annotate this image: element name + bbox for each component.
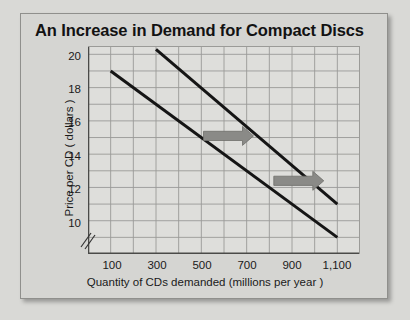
demand-chart-svg [88,46,360,254]
figure-panel-inner: An Increase in Demand for Compact Discs … [21,14,387,298]
shift-arrows [204,126,324,190]
y-axis-title-wrap: Price per CD ( dollars ) [43,74,73,224]
x-tick-label-500: 500 [182,259,222,271]
x-tick-label-900: 900 [272,259,312,271]
screenshot-root: An Increase in Demand for Compact Discs … [0,0,410,320]
x-tick-label-100: 100 [92,259,132,271]
figure-title: An Increase in Demand for Compact Discs [35,21,364,40]
y-tick-label-16: 16 [55,116,81,128]
y-tick-label-12: 12 [55,183,81,195]
y-tick-label-10: 10 [55,217,81,229]
x-tick-label-700: 700 [227,259,267,271]
figure-panel: An Increase in Demand for Compact Discs … [20,13,388,299]
x-axis-title: Quantity of CDs demanded (millions per y… [21,276,389,288]
axis-break-marks [78,230,100,256]
shift-arrow-0 [204,126,254,145]
plot-area [88,46,360,254]
y-tick-label-18: 18 [55,83,81,95]
x-tick-label-300: 300 [137,259,177,271]
x-tick-label-1100: 1,100 [317,259,357,271]
y-tick-label-14: 14 [55,150,81,162]
y-tick-label-20: 20 [55,50,81,62]
